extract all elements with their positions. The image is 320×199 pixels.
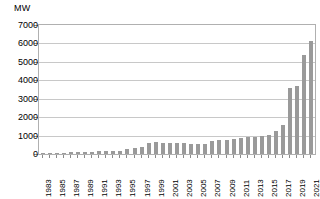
- bar: [267, 135, 271, 154]
- x-tick-mark: [218, 155, 219, 158]
- x-tick-mark: [247, 155, 248, 158]
- bar: [48, 153, 52, 154]
- bar: [302, 55, 306, 155]
- x-tick-mark: [211, 155, 212, 158]
- bar: [125, 149, 129, 154]
- bar: [83, 152, 87, 154]
- bar: [111, 151, 115, 154]
- bar: [281, 125, 285, 154]
- bar: [69, 152, 73, 154]
- bar: [161, 143, 165, 154]
- x-tick-mark: [105, 155, 106, 158]
- x-tick-mark: [126, 155, 127, 158]
- bar: [232, 139, 236, 154]
- x-tick-mark: [254, 155, 255, 158]
- bar: [76, 152, 80, 154]
- x-tick-mark: [310, 155, 311, 158]
- x-tick-label: 1983: [45, 179, 53, 197]
- y-tick-label: 5000: [4, 58, 38, 67]
- x-tick-label: 2019: [299, 179, 307, 197]
- bar: [97, 151, 101, 154]
- bar: [118, 151, 122, 155]
- x-tick-mark: [303, 155, 304, 158]
- x-tick-label: 1987: [73, 179, 81, 197]
- bar: [260, 136, 264, 154]
- x-tick-mark: [268, 155, 269, 158]
- x-tick-mark: [77, 155, 78, 158]
- bar: [62, 153, 66, 154]
- x-tick-mark: [226, 155, 227, 158]
- x-tick-mark: [155, 155, 156, 158]
- x-tick-mark: [197, 155, 198, 158]
- x-tick-label: 2007: [214, 179, 222, 197]
- bar: [274, 131, 278, 154]
- x-tick-label: 2005: [200, 179, 208, 197]
- x-tick-label: 1985: [59, 179, 67, 197]
- x-tick-mark: [282, 155, 283, 158]
- y-tick-label: 6000: [4, 39, 38, 48]
- bar: [104, 151, 108, 154]
- bar: [225, 140, 229, 154]
- y-tick-label: 0: [4, 150, 38, 159]
- bar-chart: MW 70006000500040003000200010000 1983198…: [0, 0, 320, 199]
- bar: [41, 153, 45, 154]
- x-tick-mark: [204, 155, 205, 158]
- x-tick-mark: [134, 155, 135, 158]
- x-tick-mark: [261, 155, 262, 158]
- bar: [203, 144, 207, 154]
- x-tick-label: 2011: [243, 180, 251, 197]
- bar: [175, 143, 179, 154]
- bar: [147, 143, 151, 154]
- x-tick-label: 1995: [129, 179, 137, 197]
- x-tick-mark: [162, 155, 163, 158]
- x-tick-mark: [141, 155, 142, 158]
- x-tick-label: 1993: [115, 179, 123, 197]
- x-tick-label: 2021: [313, 179, 320, 197]
- x-tick-mark: [84, 155, 85, 158]
- x-tick-mark: [233, 155, 234, 158]
- x-tick-label: 2013: [257, 179, 265, 197]
- bar: [210, 141, 214, 154]
- x-tick-mark: [289, 155, 290, 158]
- bar: [140, 147, 144, 154]
- x-tick-mark: [49, 155, 50, 158]
- x-tick-mark: [112, 155, 113, 158]
- x-tick-mark: [98, 155, 99, 158]
- x-tick-mark: [63, 155, 64, 158]
- bar: [133, 148, 137, 154]
- bar: [253, 137, 257, 155]
- x-tick-label: 1997: [144, 179, 152, 197]
- x-tick-label: 2017: [285, 179, 293, 197]
- x-tick-mark: [275, 155, 276, 158]
- y-tick-label: 1000: [4, 132, 38, 141]
- x-tick-mark: [42, 155, 43, 158]
- x-tick-mark: [296, 155, 297, 158]
- bar: [189, 144, 193, 154]
- bar: [90, 152, 94, 154]
- x-tick-mark: [190, 155, 191, 158]
- x-tick-mark: [119, 155, 120, 158]
- bar: [55, 153, 59, 154]
- x-tick-label: 1991: [101, 179, 109, 197]
- y-tick-label: 4000: [4, 76, 38, 85]
- plot-area: [38, 24, 316, 155]
- bar: [196, 144, 200, 154]
- x-tick-label: 2009: [229, 179, 237, 197]
- x-tick-mark: [240, 155, 241, 158]
- bar: [182, 143, 186, 154]
- x-tick-label: 2015: [271, 179, 279, 197]
- bar: [309, 41, 313, 154]
- bar: [288, 88, 292, 154]
- bar: [217, 140, 221, 154]
- x-tick-mark: [70, 155, 71, 158]
- x-tick-mark: [91, 155, 92, 158]
- x-tick-label: 2003: [186, 179, 194, 197]
- x-tick-label: 1989: [87, 179, 95, 197]
- x-tick-label: 2001: [172, 179, 180, 197]
- bar: [239, 138, 243, 154]
- x-tick-mark: [169, 155, 170, 158]
- y-axis-ticks: 70006000500040003000200010000: [0, 0, 38, 199]
- x-tick-mark: [183, 155, 184, 158]
- bar: [295, 86, 299, 154]
- bar-series: [39, 25, 315, 154]
